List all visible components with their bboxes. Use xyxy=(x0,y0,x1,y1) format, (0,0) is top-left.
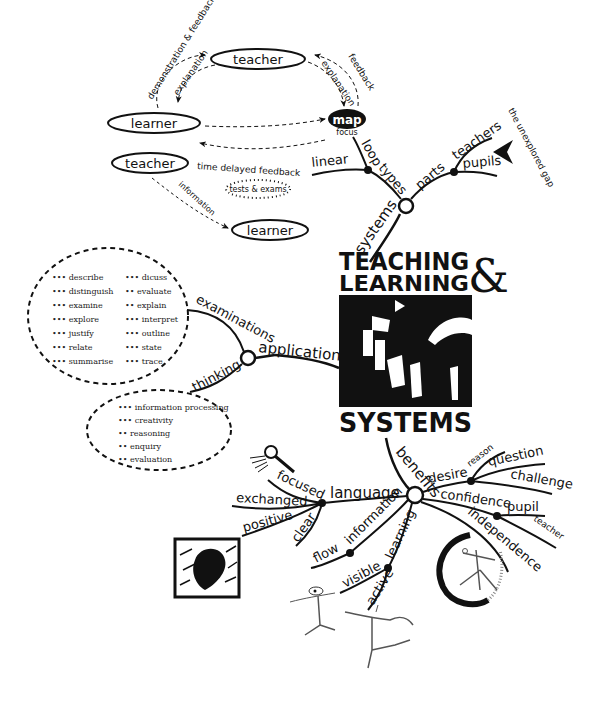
arrow-map-to-learner xyxy=(200,140,325,149)
label-feedback: feedback xyxy=(346,52,377,93)
list-item: ••• interpret xyxy=(125,315,179,324)
branch-linear xyxy=(312,169,368,175)
label-information-arrow: information xyxy=(177,180,217,218)
list-item: ••• summarise xyxy=(52,357,113,366)
label-map: map xyxy=(332,113,362,127)
list-item: ••• dicuss xyxy=(125,273,167,282)
label-tests-exams: tests & exams xyxy=(229,185,286,194)
label-learning: learning xyxy=(382,507,418,561)
label-flow: flow xyxy=(310,540,341,566)
list-item: ••• describe xyxy=(52,273,104,282)
label-teacher-top: teacher xyxy=(233,52,283,67)
list-item: ••• information processing xyxy=(118,403,229,412)
list-item: •• explain xyxy=(125,301,166,310)
list-item: •• evaluation xyxy=(118,455,172,464)
arrow-learner-to-map xyxy=(205,119,325,127)
label-focus: focus xyxy=(336,128,357,137)
dancing-figures-illustration xyxy=(290,587,413,668)
list-item: ••• examine xyxy=(52,301,103,310)
list-item: ••• relate xyxy=(52,343,93,352)
label-clear: clear xyxy=(288,509,319,544)
label-loop: loop xyxy=(358,137,385,169)
logo-systems: SYSTEMS xyxy=(339,408,472,438)
list-item: ••• trace xyxy=(125,357,163,366)
label-learner-top: learner xyxy=(131,116,178,131)
boxed-figure-illustration xyxy=(175,539,239,597)
list-item: ••• distinguish xyxy=(52,287,114,296)
label-positive: positive xyxy=(241,507,294,535)
label-learner-bottom: learner xyxy=(247,223,294,238)
label-unexplored-gap: the unexplored gap xyxy=(506,106,556,189)
examinations-col2: ••• dicuss •• evaluate •• explain ••• in… xyxy=(125,273,179,366)
list-item: •• enquiry xyxy=(118,442,162,451)
label-pupil: pupil xyxy=(507,499,539,514)
feedback-cycle-top: teacher learner map focus demonstration … xyxy=(108,0,377,149)
magnifier-icon xyxy=(250,446,294,472)
list-item: •• evaluate xyxy=(125,287,172,296)
label-linear: linear xyxy=(311,151,350,170)
label-teacher-bottom: teacher xyxy=(125,156,175,171)
list-item: ••• justify xyxy=(52,329,94,338)
mind-map: teacher learner map focus demonstration … xyxy=(0,0,592,714)
label-time-delayed: time delayed feedback xyxy=(197,161,301,178)
examinations-col1: ••• describe ••• distinguish ••• examine… xyxy=(52,273,114,366)
list-item: ••• outline xyxy=(125,329,170,338)
label-examinations: examinations xyxy=(194,291,279,345)
branch-pupils xyxy=(454,172,497,176)
applications-branch: applications examinations thinking ••• d… xyxy=(28,248,350,470)
hub-systems[interactable] xyxy=(399,199,413,213)
list-item: ••• state xyxy=(125,343,162,352)
central-logo: TEACHING LEARNING & SYSTEMS xyxy=(339,248,509,438)
feedback-cycle-bottom: teacher learner time delayed feedback te… xyxy=(112,153,308,240)
label-explanation-right: explanation xyxy=(319,59,357,108)
label-thinking: thinking xyxy=(189,357,243,395)
logo-learning: LEARNING xyxy=(339,271,469,296)
label-pupils: pupils xyxy=(462,153,502,171)
hub-applications[interactable] xyxy=(241,351,255,365)
label-exchanged: exchanged xyxy=(236,490,308,509)
list-item: •• reasoning xyxy=(118,429,170,438)
benefits-branch: benefits language focused exchanged posi… xyxy=(232,438,574,610)
thinking-list: ••• information processing ••• creativit… xyxy=(118,403,229,464)
hub-benefits[interactable] xyxy=(407,487,423,503)
circle-figure-illustration xyxy=(439,535,501,604)
list-item: ••• creativity xyxy=(118,416,174,425)
list-item: ••• explore xyxy=(52,315,99,324)
logo-ampersand: & xyxy=(468,249,509,303)
